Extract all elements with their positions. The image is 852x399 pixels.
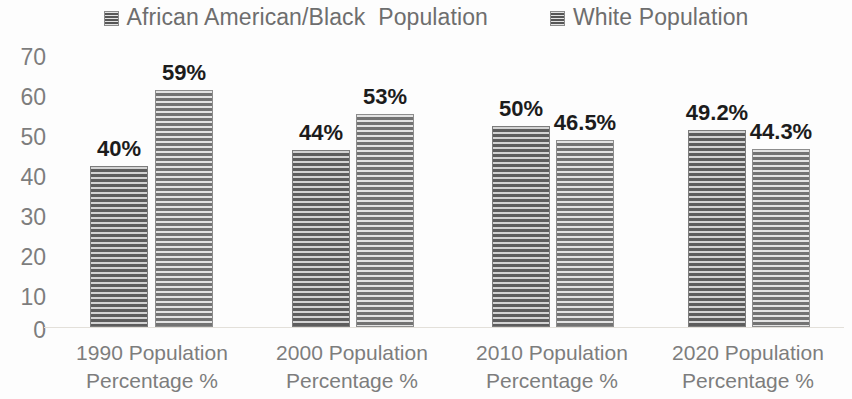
bar-2010-african-american-black[interactable] (492, 126, 550, 327)
x-axis-category-line: Percentage % (62, 367, 242, 395)
bar-value-label: 46.5% (550, 112, 620, 134)
legend-entry-african-american-black-population[interactable]: African American/Black Population (104, 4, 488, 31)
bar-value-label: 44.3% (746, 121, 816, 143)
bar-1990-white[interactable] (155, 90, 213, 327)
x-axis-category-2020: 2020 Population Percentage % (658, 339, 838, 394)
bar-value-label: 59% (155, 62, 213, 84)
bar-2010-white[interactable] (556, 140, 614, 327)
x-axis-category-line: 2010 Population (462, 339, 642, 367)
bar-2020-african-american-black[interactable] (688, 130, 746, 328)
legend-swatch-icon (550, 11, 565, 26)
bar-value-label: 50% (492, 98, 550, 120)
x-axis-category-2000: 2000 Population Percentage % (262, 339, 442, 394)
x-axis-category-line: 1990 Population (62, 339, 242, 367)
x-axis-category-line: 2020 Population (658, 339, 838, 367)
x-axis-category-line: Percentage % (462, 367, 642, 395)
x-axis-category-line: 2000 Population (262, 339, 442, 367)
bar-2020-white[interactable] (752, 149, 810, 327)
bar-value-label: 53% (356, 86, 414, 108)
legend-entry-white-population[interactable]: White Population (550, 4, 748, 31)
legend-label: White Population (573, 4, 748, 31)
legend-swatch-icon (104, 11, 119, 26)
bar-value-label: 40% (90, 138, 148, 160)
x-axis-category-2010: 2010 Population Percentage % (462, 339, 642, 394)
x-axis-category-line: Percentage % (262, 367, 442, 395)
bar-1990-african-american-black[interactable] (90, 166, 148, 327)
bar-value-label: 44% (292, 122, 350, 144)
plot-area: 70 60 50 40 30 20 10 0 40% 59% 44% 53% 5… (0, 34, 852, 339)
x-axis-category-line: Percentage % (658, 367, 838, 395)
x-axis-category-1990: 1990 Population Percentage % (62, 339, 242, 394)
bar-chart: African American/Black Population White … (0, 0, 852, 399)
bar-2000-white[interactable] (356, 114, 414, 327)
bar-2000-african-american-black[interactable] (292, 150, 350, 327)
bar-value-label: 49.2% (682, 102, 752, 124)
x-axis: 1990 Population Percentage % 2000 Popula… (0, 339, 852, 399)
legend-label: African American/Black Population (127, 4, 488, 31)
bars-layer: 40% 59% 44% 53% 50% 46.5% 49.2% 44.3% (0, 34, 852, 339)
chart-legend: African American/Black Population White … (0, 0, 852, 34)
